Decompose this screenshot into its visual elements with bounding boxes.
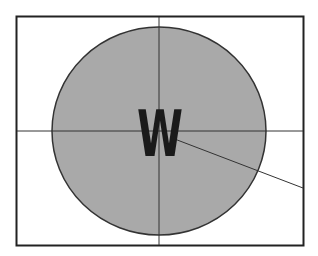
center-label: W (137, 97, 183, 171)
diagram-canvas: W (0, 0, 318, 256)
